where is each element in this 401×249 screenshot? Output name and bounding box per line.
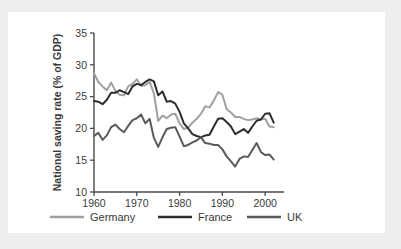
figure-card: 10152025303519601970198019902000National…	[8, 12, 385, 233]
y-tick-label: 20	[75, 122, 87, 134]
chart-figure: 10152025303519601970198019902000National…	[8, 12, 385, 233]
y-tick-label: 25	[75, 90, 87, 102]
legend-label-germany: Germany	[90, 211, 136, 223]
y-tick-label: 30	[75, 59, 87, 71]
legend: GermanyFranceUK	[50, 211, 303, 223]
x-tick-label: 1970	[125, 197, 149, 209]
y-axis-title: National saving rate (% of GDP)	[51, 34, 63, 192]
x-axis-ticks: 19601970198019902000	[82, 192, 277, 209]
national-saving-rate-line-chart: 10152025303519601970198019902000National…	[8, 12, 385, 233]
series-group	[94, 73, 274, 166]
y-tick-label: 10	[75, 186, 87, 198]
legend-label-uk: UK	[287, 211, 303, 223]
x-tick-label: 2000	[253, 197, 277, 209]
legend-label-france: France	[198, 211, 232, 223]
y-axis-ticks: 101520253035	[75, 27, 94, 198]
x-tick-label: 1980	[168, 197, 192, 209]
x-tick-label: 1960	[82, 197, 106, 209]
y-tick-label: 35	[75, 27, 87, 39]
y-tick-label: 15	[75, 154, 87, 166]
x-tick-label: 1990	[211, 197, 235, 209]
